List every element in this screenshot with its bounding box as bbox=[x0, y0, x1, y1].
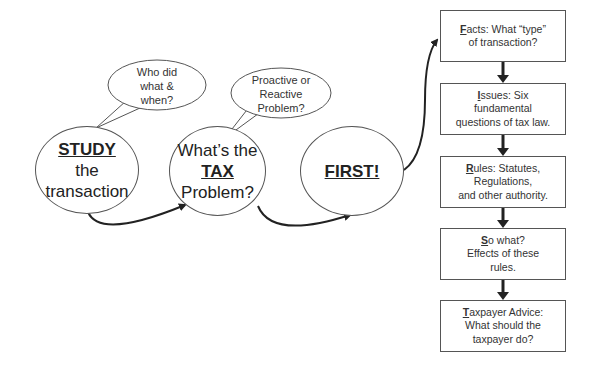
box-line: and other authority. bbox=[458, 189, 548, 203]
bubble-proactive-text: Proactive or Reactive Problem? bbox=[235, 72, 327, 116]
box-line: fundamental bbox=[474, 102, 532, 116]
bubble-line: Who did bbox=[137, 65, 177, 79]
box-line: Effects of these bbox=[467, 247, 539, 261]
box-line: axpayer Advice: bbox=[469, 306, 543, 318]
circle-line: transaction bbox=[45, 181, 128, 202]
circle-tax-problem: What’s the TAX Problem? bbox=[169, 126, 266, 216]
circle-line: Problem? bbox=[181, 182, 254, 203]
box-line: What should the bbox=[465, 319, 541, 333]
bubble-line: what & bbox=[140, 79, 174, 93]
box-line: questions of tax law. bbox=[456, 116, 551, 130]
box-line: rules. bbox=[490, 261, 516, 275]
bubble-who-text: Who did what & when? bbox=[112, 64, 202, 108]
box-so-what: So what? Effects of these rules. bbox=[440, 228, 566, 280]
bubble-line: Problem? bbox=[257, 101, 304, 115]
box-line: ules: Statutes, bbox=[474, 162, 541, 174]
box-issues: Issues: Six fundamental questions of tax… bbox=[440, 83, 566, 135]
arrow-first-to-facts bbox=[404, 40, 437, 170]
box-taxpayer-advice: Taxpayer Advice: What should the taxpaye… bbox=[440, 300, 566, 352]
box-rules: Rules: Statutes, Regulations, and other … bbox=[440, 156, 566, 208]
bubble-line: when? bbox=[141, 93, 173, 107]
circle-first: FIRST! bbox=[300, 126, 404, 216]
box-line: taxpayer do? bbox=[473, 333, 534, 347]
circle-first-title: FIRST! bbox=[325, 161, 380, 182]
bubble-line: Proactive or bbox=[252, 73, 311, 87]
box-line: o what? bbox=[488, 234, 525, 246]
box-line: acts: What “type” bbox=[467, 23, 546, 35]
circle-line: What’s the bbox=[177, 140, 257, 161]
box-line: Regulations, bbox=[474, 175, 532, 189]
circle-study-title: STUDY bbox=[58, 139, 116, 160]
circle-study: STUDY the transaction bbox=[35, 126, 139, 214]
box-line: of transaction? bbox=[469, 36, 538, 50]
box-initial: R bbox=[466, 162, 474, 174]
bubble-line: Reactive bbox=[260, 87, 303, 101]
circle-line: the bbox=[75, 160, 99, 181]
box-line: ssues: Six bbox=[481, 89, 529, 101]
box-facts: Facts: What “type” of transaction? bbox=[440, 10, 566, 62]
circle-tax-title: TAX bbox=[201, 161, 234, 182]
